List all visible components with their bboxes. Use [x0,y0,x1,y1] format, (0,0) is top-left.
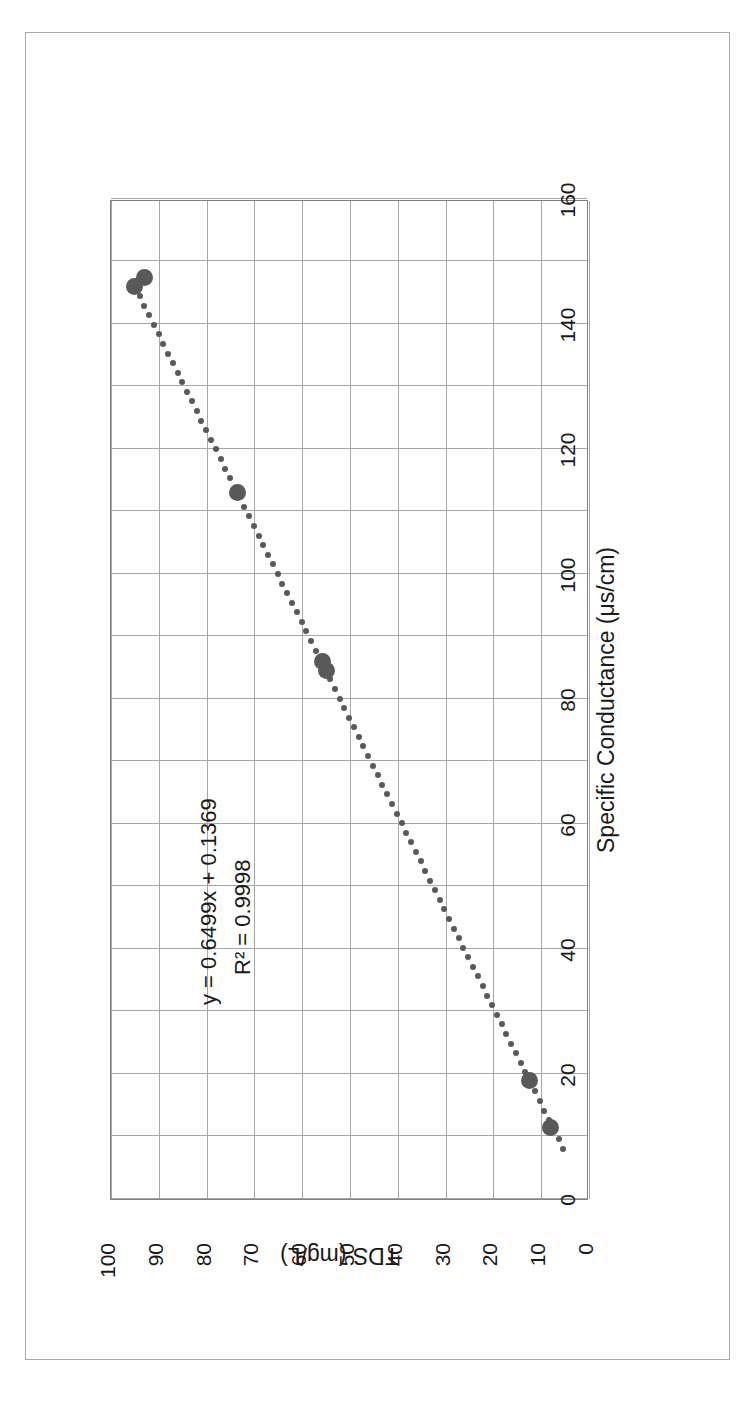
y-gridline [111,201,112,1199]
trendline-dot [189,399,195,405]
trendline-dot [456,935,462,941]
x-gridline [111,698,587,699]
x-tick-label: 20 [556,1045,580,1105]
plot-area [110,200,588,1200]
trendline-dot [184,389,190,395]
y-gridline [398,201,399,1199]
trendline-dot [403,830,409,836]
trendline-dot [360,744,366,750]
trendline-dot [537,1098,543,1104]
trendline-dot [203,427,209,433]
trendline-dot [365,753,371,759]
trendline-dot [394,811,400,817]
trendline-dot [279,581,285,587]
y-tick-label: 10 [526,1243,550,1313]
y-gridline [493,201,494,1199]
y-gridline [159,201,160,1199]
trendline-dot [260,542,266,548]
trendline-dot [208,437,214,443]
trendline-dot [351,724,357,730]
trendline-dot [313,648,319,654]
trendline-dot [303,629,309,635]
x-gridline [111,323,587,324]
trendline-dot [241,504,247,510]
x-tick-label: 100 [556,545,580,605]
x-tick-label: 160 [556,170,580,230]
x-gridline [111,448,587,449]
x-gridline [111,1136,587,1137]
trendline-dot [284,590,290,596]
x-tick-label: 140 [556,295,580,355]
data-point-marker [521,1072,538,1089]
trendline-dot [399,820,405,826]
data-point-marker [542,1119,559,1136]
x-gridline [111,198,587,199]
trendline-dot [370,763,376,769]
trendline-dot [332,686,338,692]
trendline-dot [194,408,200,414]
trendline-dot [532,1089,538,1095]
trendline-dot [465,954,471,960]
trendline-dot [156,331,162,337]
trendline-dot [275,571,281,577]
trendline-dot [356,734,362,740]
trendline-dot [480,983,486,989]
x-gridline [111,511,587,512]
trendline-dot [375,772,381,778]
y-tick-label: 70 [239,1243,263,1313]
trendline-dot [470,964,476,970]
trendline-dot [256,533,262,539]
trendline-dot [451,926,457,932]
trendline-dot [418,859,424,865]
trendline-dot [384,791,390,797]
trendline-dot [299,619,305,625]
y-tick-label: 0 [574,1243,598,1313]
y-gridline [302,201,303,1199]
trendline-dot [446,916,452,922]
y-tick-label: 60 [287,1243,311,1313]
y-tick-label: 40 [383,1243,407,1313]
trendline-dot [432,887,438,893]
data-point-marker [136,269,153,286]
trendline-dot [341,705,347,711]
x-tick-label: 60 [556,795,580,855]
trendline-dot [246,514,252,520]
trendline-dot [422,868,428,874]
y-gridline [350,201,351,1199]
trendline-dot [308,638,314,644]
y-tick-label: 80 [192,1243,216,1313]
y-gridline [254,201,255,1199]
y-tick-label: 90 [144,1243,168,1313]
y-gridline [207,201,208,1199]
y-gridline [541,201,542,1199]
y-gridline [446,201,447,1199]
trendline-dot [503,1031,509,1037]
x-tick-label: 120 [556,420,580,480]
trendline-dot [160,341,166,347]
trendline-dot [408,839,414,845]
scanned-page-border: y = 0.6499x + 0.1369 R² = 0.9998 Specifi… [25,32,730,1360]
x-tick-label: 0 [556,1170,580,1230]
rotated-chart-wrapper: y = 0.6499x + 0.1369 R² = 0.9998 Specifi… [68,145,668,1305]
y-tick-label: 30 [431,1243,455,1313]
trendline-dot [560,1146,566,1152]
trendline-dot [222,466,228,472]
trendline-dot [379,782,385,788]
data-point-marker [229,484,246,501]
trendline-dot [165,351,171,357]
trendline-dot [265,552,271,558]
trendline-dot [499,1021,505,1027]
data-point-marker [314,653,331,670]
trendline-dot [179,379,185,385]
trendline-dot [437,897,443,903]
trendline-dot [475,974,481,980]
y-tick-label: 50 [335,1243,359,1313]
trendline-dot [508,1041,514,1047]
x-gridline [111,261,587,262]
trendline-dot [513,1050,519,1056]
trendline-dot [289,600,295,606]
trendline-dot [218,456,224,462]
trendline-dot [556,1136,562,1142]
x-tick-label: 80 [556,670,580,730]
x-gridline [111,1011,587,1012]
